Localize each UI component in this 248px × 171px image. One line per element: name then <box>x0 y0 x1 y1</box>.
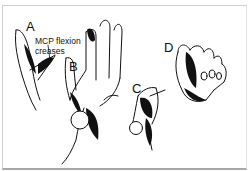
panel-d-shading <box>184 52 206 101</box>
panel-d-hand <box>176 45 226 102</box>
panel-label-d: D <box>164 41 173 54</box>
panel-label-c: C <box>132 82 141 95</box>
annotation-mcp-flexion: MCP flexion <box>35 36 81 46</box>
panel-c-nodule <box>130 122 143 135</box>
panel-c-shading <box>140 98 152 146</box>
panel-label-a: A <box>26 20 35 33</box>
panel-label-b: B <box>69 60 78 73</box>
annotation-creases: creases <box>35 46 65 56</box>
panel-b-nodule <box>71 111 89 129</box>
hand-illustration <box>0 0 248 171</box>
